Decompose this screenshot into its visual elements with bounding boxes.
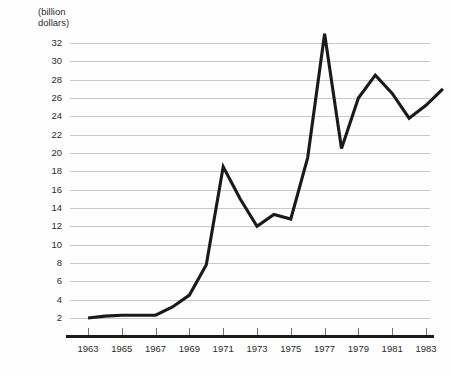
x-axis-tick-1969 — [189, 328, 190, 335]
x-axis-tick-1977 — [325, 328, 326, 335]
chart-container: (billion dollars) 3230282624222018161412… — [0, 0, 452, 378]
x-axis-tick-1983 — [426, 328, 427, 335]
series-line-chart — [0, 0, 452, 378]
x-axis-tick-1971 — [223, 328, 224, 335]
x-axis-tick-label-1983: 1983 — [406, 343, 446, 354]
x-axis-tick-1981 — [392, 328, 393, 335]
x-axis-tick-1965 — [122, 328, 123, 335]
x-axis-tick-1979 — [358, 328, 359, 335]
x-axis-tick-1967 — [156, 328, 157, 335]
series-line-value — [88, 34, 443, 318]
x-axis-tick-1973 — [257, 328, 258, 335]
x-axis-tick-1963 — [88, 328, 89, 335]
x-axis-tick-1975 — [291, 328, 292, 335]
